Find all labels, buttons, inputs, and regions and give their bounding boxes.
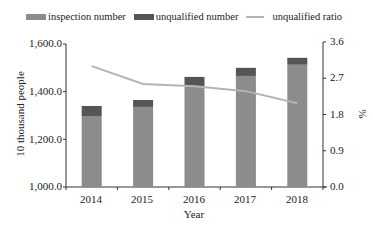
- y2-tick: 1.8: [330, 108, 344, 120]
- bar-unqualified: [236, 68, 256, 76]
- bar-inspection: [287, 65, 307, 187]
- bar-inspection: [82, 116, 102, 187]
- x-tick: 2015: [122, 193, 162, 205]
- bar-unqualified: [287, 58, 307, 65]
- bar-unqualified: [185, 77, 205, 86]
- y2-axis-title: %: [356, 108, 368, 120]
- y2-tick: 0.9: [330, 144, 344, 156]
- y2-tick: 3.6: [330, 35, 344, 47]
- x-tick: 2014: [71, 193, 111, 205]
- bar-unqualified: [82, 106, 102, 116]
- x-axis-title: Year: [174, 208, 214, 220]
- bar-unqualified: [133, 100, 153, 107]
- y2-tick: 2.7: [330, 71, 344, 83]
- x-tick: 2018: [277, 193, 317, 205]
- bar-inspection: [133, 107, 153, 187]
- bar-inspection: [185, 86, 205, 187]
- x-tick: 2016: [174, 193, 214, 205]
- y-tick: 1,000.0: [6, 180, 62, 192]
- y-tick: 1,600.0: [6, 37, 62, 49]
- y2-tick: 0.0: [330, 180, 344, 192]
- x-tick: 2017: [225, 193, 265, 205]
- y-axis-title: 10 thousand people: [14, 59, 26, 169]
